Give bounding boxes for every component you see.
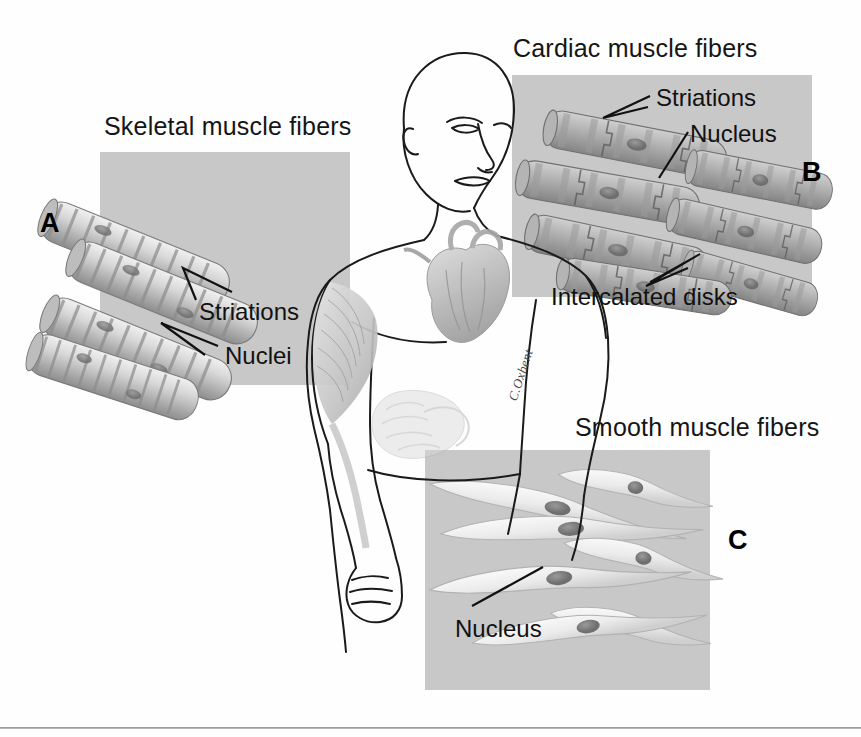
bottom-divider — [0, 727, 861, 729]
panel-letter-a: A — [40, 208, 60, 239]
viscera-illustration — [372, 390, 469, 458]
panel-background-smooth — [425, 450, 710, 690]
annotation-intercalated-disks: Intercalated disks — [551, 283, 738, 311]
caption-smooth: Smooth muscle fibers — [575, 413, 819, 442]
annotation-nuclei-skeletal: Nuclei — [225, 342, 292, 370]
heart-illustration — [404, 222, 510, 342]
annotation-striations-cardiac: Striations — [656, 84, 756, 112]
panel-letter-b: B — [802, 157, 822, 188]
caption-skeletal: Skeletal muscle fibers — [104, 112, 352, 141]
annotation-striations-skeletal: Striations — [199, 298, 299, 326]
annotation-nucleus-cardiac: Nucleus — [690, 120, 777, 148]
caption-cardiac: Cardiac muscle fibers — [513, 34, 758, 63]
panel-letter-c: C — [728, 525, 748, 556]
artist-signature: C.Oxbent — [505, 347, 537, 403]
muscle-tissue-figure: Skeletal muscle fibers Cardiac muscle fi… — [0, 0, 861, 737]
annotation-nucleus-smooth: Nucleus — [455, 615, 542, 643]
